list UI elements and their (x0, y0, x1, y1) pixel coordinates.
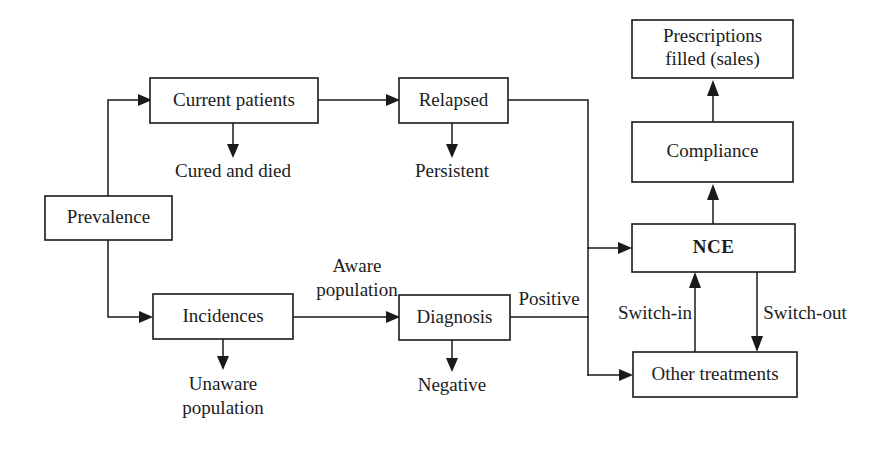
edge-trunk-to-other-treatments (588, 369, 633, 381)
node-compliance-label: Compliance (667, 140, 759, 161)
node-prescriptions-label-line2: filled (sales) (665, 48, 759, 70)
label-persistent: Persistent (415, 160, 490, 181)
node-nce[interactable]: NCE (632, 224, 795, 272)
node-nce-label: NCE (693, 236, 735, 257)
node-incidences[interactable]: Incidences (153, 294, 293, 339)
edge-diagnosis-to-negative (446, 340, 458, 372)
node-diagnosis[interactable]: Diagnosis (399, 295, 510, 340)
node-compliance[interactable]: Compliance (632, 122, 793, 182)
label-negative: Negative (418, 374, 487, 395)
label-cured-and-died: Cured and died (175, 160, 292, 181)
edge-prevalence-to-current-patients (108, 94, 152, 196)
edge-label-aware-population-line1: Aware (333, 255, 382, 276)
edge-label-aware-population-line2: population (316, 279, 398, 300)
flowchart-canvas: Prevalence Current patients Relapsed Inc… (0, 0, 885, 452)
node-other-treatments-label: Other treatments (651, 363, 778, 384)
node-relapsed-label: Relapsed (419, 89, 489, 110)
edge-trunk-to-nce (588, 242, 632, 254)
flowchart-diagram: Prevalence Current patients Relapsed Inc… (0, 0, 885, 452)
edge-label-switch-out: Switch-out (763, 302, 847, 323)
node-current-patients-label: Current patients (173, 89, 295, 110)
node-prescriptions-label-line1: Prescriptions (663, 25, 762, 46)
edge-current-patients-to-cured-and-died (227, 123, 239, 158)
edge-relapsed-to-trunk (508, 100, 588, 375)
label-unaware-population-line1: Unaware (189, 373, 258, 394)
edge-nce-to-other-treatments-switch-out (751, 272, 763, 352)
edge-prevalence-to-incidences (108, 240, 153, 323)
label-unaware-population-line2: population (182, 397, 264, 418)
edge-current-patients-to-relapsed (318, 94, 400, 106)
edge-label-switch-in: Switch-in (618, 302, 692, 323)
edge-label-positive: Positive (518, 288, 579, 309)
node-diagnosis-label: Diagnosis (417, 306, 493, 327)
edge-relapsed-to-persistent (446, 123, 458, 158)
node-prescriptions-filled[interactable]: Prescriptions filled (sales) (632, 20, 793, 78)
edge-incidences-to-unaware-population (217, 339, 229, 370)
node-relapsed[interactable]: Relapsed (399, 78, 508, 123)
edge-nce-to-compliance (707, 184, 719, 224)
edge-compliance-to-prescriptions (707, 80, 719, 122)
node-prevalence[interactable]: Prevalence (45, 196, 172, 240)
node-incidences-label: Incidences (182, 305, 263, 326)
node-current-patients[interactable]: Current patients (150, 78, 318, 123)
node-prevalence-label: Prevalence (67, 206, 150, 227)
edge-incidences-to-diagnosis (293, 311, 400, 323)
node-other-treatments[interactable]: Other treatments (633, 352, 797, 397)
